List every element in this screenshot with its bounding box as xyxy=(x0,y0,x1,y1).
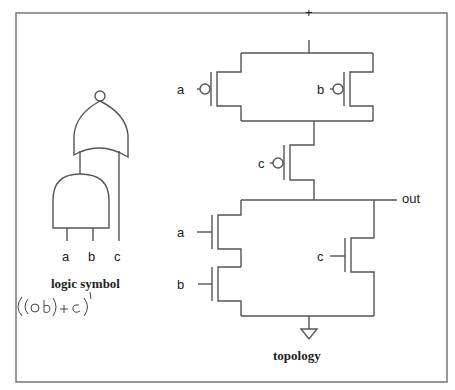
transistor-topology: + a b c o xyxy=(177,5,420,363)
pmos-b: b xyxy=(317,53,373,121)
gate-label-a: a xyxy=(177,82,185,97)
pmos-bubble xyxy=(273,158,283,168)
diagram-frame xyxy=(16,13,447,382)
gate-label-a: a xyxy=(177,225,185,240)
gate-label-c: c xyxy=(317,249,324,264)
or-gate-body xyxy=(74,101,128,157)
gate-label-b: b xyxy=(177,277,184,292)
input-label-a: a xyxy=(62,249,70,264)
logic-symbol-caption: logic symbol xyxy=(51,276,120,291)
pmos-bubble xyxy=(200,84,210,94)
diagram-canvas: a b c logic symbol + a xyxy=(0,0,455,390)
supply-label: + xyxy=(305,5,313,20)
gate-label-b: b xyxy=(317,82,324,97)
nmos-c: c xyxy=(317,200,374,316)
input-label-b: b xyxy=(88,249,95,264)
ground-icon xyxy=(301,329,317,339)
handwritten-expression xyxy=(18,292,91,316)
output-label: out xyxy=(402,191,420,206)
gate-label-c: c xyxy=(258,156,265,171)
inversion-bubble xyxy=(95,91,105,101)
pmos-c: c xyxy=(258,121,314,200)
input-label-c: c xyxy=(114,249,121,264)
nmos-a: a xyxy=(177,200,241,267)
and-gate-body xyxy=(53,174,109,228)
pmos-a: a xyxy=(177,53,241,121)
topology-caption: topology xyxy=(273,348,321,363)
pmos-bubble xyxy=(333,84,343,94)
nmos-b: b xyxy=(177,267,241,316)
logic-symbol: a b c logic symbol xyxy=(51,91,128,291)
